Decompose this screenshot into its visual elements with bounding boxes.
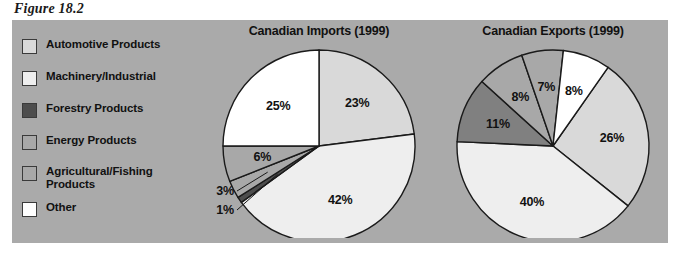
legend-item-label: Other xyxy=(46,201,76,214)
legend-item: Forestry Products xyxy=(22,102,143,118)
legend-item-label: Agricultural/Fishing Products xyxy=(46,165,153,190)
chart-canadian-exports: Canadian Exports (1999) 26%40%11%8%7%8% xyxy=(432,24,674,244)
chart-title-imports: Canadian Imports (1999) xyxy=(198,24,440,38)
legend-swatch-icon xyxy=(22,71,37,86)
legend-swatch-icon xyxy=(22,39,37,54)
pie-slice-label: 25% xyxy=(266,99,291,113)
legend-swatch-icon xyxy=(22,202,37,217)
legend-item-label: Machinery/Industrial xyxy=(46,70,156,83)
legend-swatch-icon xyxy=(22,166,37,181)
chart-legend: Automotive ProductsMachinery/IndustrialF… xyxy=(22,38,192,218)
pie-slice-label: 3% xyxy=(216,184,234,198)
legend-item: Automotive Products xyxy=(22,38,160,54)
pie-slice-label: 7% xyxy=(538,80,556,94)
chart-title-exports: Canadian Exports (1999) xyxy=(432,24,674,38)
pie-slice-label: 11% xyxy=(486,117,510,131)
legend-item-label: Automotive Products xyxy=(46,38,160,51)
chart-canadian-imports: Canadian Imports (1999) 23%42%1%3%6%25% xyxy=(198,24,440,244)
legend-item-label: Forestry Products xyxy=(46,102,143,115)
pie-slice-label: 26% xyxy=(600,131,625,145)
pie-slice-label: 23% xyxy=(345,96,370,110)
legend-swatch-icon xyxy=(22,135,37,150)
legend-swatch-icon xyxy=(22,103,37,118)
pie-slice-label: 42% xyxy=(328,193,353,207)
legend-item-label: Energy Products xyxy=(46,134,137,147)
pie-slice-label: 8% xyxy=(511,90,529,104)
figure-caption: Figure 18.2 xyxy=(14,1,84,17)
pie-slice-label: 8% xyxy=(565,84,583,98)
pie-slice-label: 1% xyxy=(216,203,234,217)
pie-chart-exports: 26%40%11%8%7%8% xyxy=(432,38,674,238)
legend-item: Other xyxy=(22,201,76,217)
pie-chart-imports: 23%42%1%3%6%25% xyxy=(198,38,440,238)
legend-item: Agricultural/Fishing Products xyxy=(22,165,153,190)
legend-item: Machinery/Industrial xyxy=(22,70,156,86)
legend-item: Energy Products xyxy=(22,134,137,150)
pie-slice-label: 40% xyxy=(520,195,545,209)
pie-slice-label: 6% xyxy=(254,150,272,164)
